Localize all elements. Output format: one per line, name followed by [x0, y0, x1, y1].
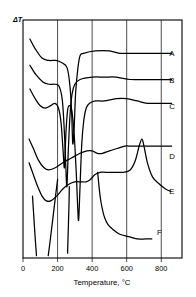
- x-tick-label: 0: [21, 264, 25, 273]
- x-tick-group: 0200400600800: [21, 258, 167, 273]
- curve-label-A: A: [169, 49, 175, 58]
- plot-frame: [23, 20, 182, 258]
- chart-svg: ΔT 0200400600800 ABCDEF Temperature, °C: [0, 0, 196, 297]
- curve-F-left-tail-2: [48, 179, 57, 255]
- curve-F: [98, 172, 152, 239]
- x-tick-label: 800: [155, 264, 167, 273]
- curve-label-E: E: [169, 187, 174, 196]
- curve-label-D: D: [169, 152, 175, 161]
- curve-label-B: B: [169, 76, 174, 85]
- curve-B: [30, 65, 172, 187]
- curve-A: [30, 39, 172, 144]
- curve-F-left-tail-1: [33, 196, 37, 256]
- curve-group: [29, 39, 172, 256]
- dta-thermogram-figure: ΔT 0200400600800 ABCDEF Temperature, °C: [0, 0, 196, 297]
- x-tick-label: 600: [121, 264, 133, 273]
- curve-label-C: C: [169, 102, 175, 111]
- curve-label-F: F: [157, 228, 162, 237]
- curve-label-group: ABCDEF: [157, 49, 175, 237]
- curve-F-left-tail-3: [68, 187, 70, 254]
- x-tick-label: 400: [86, 264, 98, 273]
- x-tick-label: 200: [51, 264, 63, 273]
- y-axis-label: ΔT: [12, 15, 23, 24]
- curve-D: [29, 139, 172, 170]
- x-axis-label: Temperature, °C: [74, 278, 131, 287]
